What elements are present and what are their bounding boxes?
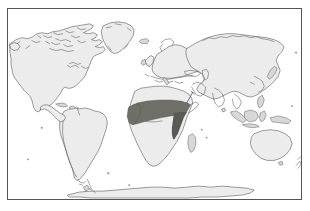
landmass-new-guinea [270, 116, 291, 124]
region-southeast-asia [230, 94, 291, 128]
world-distribution-map-figure [0, 0, 310, 211]
landmass-asia [186, 34, 284, 99]
landmass-australia [250, 130, 292, 161]
region-north-america [10, 24, 105, 112]
landmass-africa [128, 86, 193, 166]
landmass-sulawesi [259, 111, 266, 122]
island-dot [27, 159, 28, 160]
island-dot [295, 52, 296, 53]
landmass-antarctic-islet [83, 185, 89, 191]
island-dot [108, 172, 110, 174]
landmass-central-america [41, 105, 66, 122]
landmass-philippines [257, 95, 264, 108]
region-oceania [250, 130, 301, 169]
map-frame [7, 8, 302, 200]
landmass-ireland [141, 59, 146, 65]
landmass-greenland [101, 22, 134, 54]
map-canvas [8, 9, 301, 199]
region-africa [128, 86, 199, 166]
landmass-madagascar [188, 134, 196, 153]
landmass-antarctica [68, 186, 255, 198]
island-dot [201, 129, 202, 130]
coastline-new-zealand [296, 156, 301, 168]
island-dot [291, 105, 292, 106]
landmass-north-america [10, 24, 105, 112]
landmass-sumatra [230, 111, 246, 123]
island-dot [41, 127, 42, 128]
region-greenland [101, 22, 134, 54]
coastline-tierra-del-fuego [78, 180, 86, 185]
region-south-america [60, 108, 108, 185]
landmass-iceland [139, 39, 149, 44]
landmass-sri-lanka [222, 108, 226, 112]
island-dot [206, 137, 207, 138]
island-dot [129, 185, 130, 186]
landmass-java [242, 124, 259, 128]
region-asia [186, 34, 284, 112]
landmass-tasmania [278, 161, 283, 165]
landmass-cuba [56, 103, 68, 107]
region-antarctica [68, 179, 255, 198]
coastline-indochina [232, 94, 241, 109]
landmass-south-america [60, 108, 108, 180]
